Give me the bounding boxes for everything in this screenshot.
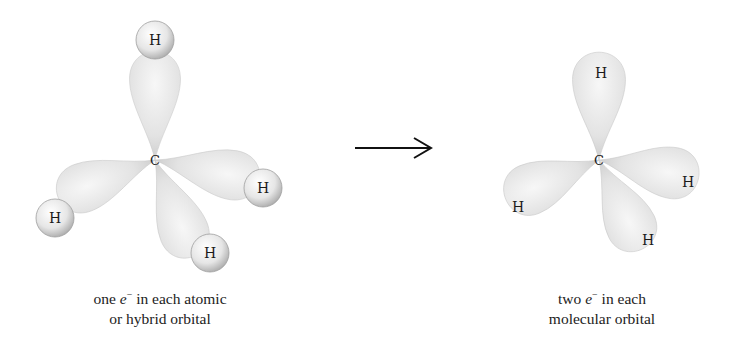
right-c-atom: C (594, 153, 604, 168)
left-caption-line1: one e− in each atomic (40, 289, 280, 309)
right-molecule: H H H H C (496, 52, 703, 260)
left-c-atom: C (150, 153, 160, 168)
left-h-atom-left: H (36, 199, 74, 237)
left-caption: one e− in each atomic or hybrid orbital (40, 289, 280, 329)
left-lobe-top (130, 51, 181, 160)
orbital-figure: H H H H C (0, 0, 739, 351)
svg-text:H: H (149, 32, 161, 48)
left-molecule: H H H H C (36, 21, 282, 272)
svg-text:H: H (49, 210, 61, 226)
right-h-label-left: H (512, 199, 524, 215)
left-h-atom-right: H (244, 169, 282, 207)
right-h-label-right: H (682, 174, 694, 190)
left-h-atom-top: H (136, 21, 174, 59)
left-caption-line2: or hybrid orbital (40, 309, 280, 329)
right-caption-line1: two e− in each (482, 289, 722, 309)
left-h-atom-lower: H (191, 234, 229, 272)
reaction-arrow-icon (355, 138, 431, 158)
electron-symbol: e (120, 290, 127, 307)
svg-text:H: H (204, 245, 216, 261)
right-caption: two e− in each molecular orbital (482, 289, 722, 329)
right-caption-line2: molecular orbital (482, 309, 722, 329)
right-h-label-top: H (595, 65, 607, 81)
right-h-label-lower: H (642, 232, 654, 248)
svg-text:H: H (257, 180, 269, 196)
